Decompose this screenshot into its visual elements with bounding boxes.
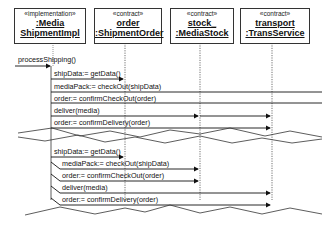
message-label: shipData:= getData() xyxy=(54,69,121,78)
message-label: shipData:= getData() xyxy=(54,147,121,156)
participant-name-line1: :Media xyxy=(15,18,85,28)
entry-message-label: processShipping() xyxy=(18,55,76,64)
participant-media-shipment-impl[interactable]: «implementation» :Media ShipmentImpl xyxy=(14,8,86,44)
participant-name-line2: :TransService xyxy=(241,28,309,38)
participant-order[interactable]: «contract» order :ShipmentOrder xyxy=(94,8,162,44)
participant-transport[interactable]: «contract» transport :TransService xyxy=(240,8,310,44)
participant-name-line2: :MediaStock xyxy=(171,28,233,38)
stereotype-label: «contract» xyxy=(95,10,161,18)
participant-name-line1: order xyxy=(95,18,161,28)
message-label: mediaPack:= checkOut(shipData) xyxy=(62,159,169,168)
message-label: order:= confirmCheckOut(order) xyxy=(62,171,164,180)
stereotype-label: «implementation» xyxy=(15,10,85,18)
message-label: deliver(media) xyxy=(62,183,108,192)
message-label: order:= confirmDelivery(order) xyxy=(62,195,158,204)
break-lines xyxy=(18,128,322,143)
bottom-break-line xyxy=(25,205,322,215)
message-label: order:= confirmCheckOut(order) xyxy=(54,94,156,103)
message-label: deliver(media) xyxy=(54,106,100,115)
participant-stock[interactable]: «contract» stock_ :MediaStock xyxy=(170,8,234,44)
participant-name-line2: :ShipmentOrder xyxy=(95,28,161,38)
participant-name-line1: transport xyxy=(241,18,309,28)
stereotype-label: «contract» xyxy=(241,10,309,18)
message-label: mediaPack:= checkOut(shipData) xyxy=(54,82,161,91)
participant-name-line2: ShipmentImpl xyxy=(15,28,85,38)
participant-name-line1: stock_ xyxy=(171,18,233,28)
stereotype-label: «contract» xyxy=(171,10,233,18)
message-label: order:= confirmDelivery(order) xyxy=(54,118,150,127)
